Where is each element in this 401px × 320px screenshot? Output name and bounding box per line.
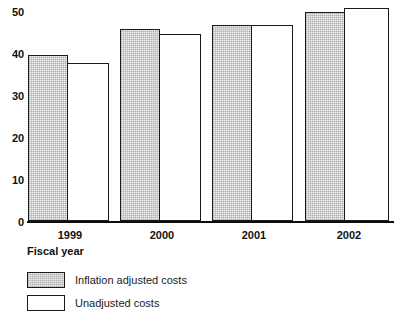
bar-2002-unadjusted-costs <box>344 8 389 221</box>
bar-2000-inflation-adjusted-costs <box>120 29 160 221</box>
legend-label-unadjusted-costs: Unadjusted costs <box>75 296 159 310</box>
legend-swatch-unadjusted-costs <box>27 295 65 311</box>
bar-group-1999 <box>28 8 112 221</box>
bar-2002-inflation-adjusted-costs <box>305 12 345 221</box>
plot-area <box>27 8 394 223</box>
legend-item-unadjusted-costs: Unadjusted costs <box>27 295 257 315</box>
x-tick-label-2001: 2001 <box>212 229 296 241</box>
y-tick-label-0: 0 <box>0 217 24 228</box>
chart-legend: Inflation adjusted costs Unadjusted cost… <box>27 272 257 318</box>
legend-label-inflation-adjusted-costs: Inflation adjusted costs <box>75 273 187 287</box>
x-tick-label-2000: 2000 <box>120 229 204 241</box>
bar-chart-figure: 50 40 30 20 10 0 1999 2000 2001 2002 Fis… <box>0 0 401 320</box>
bar-group-2002 <box>305 8 393 221</box>
bar-1999-inflation-adjusted-costs <box>28 55 68 221</box>
y-tick-label-20: 20 <box>0 133 24 144</box>
bar-2001-inflation-adjusted-costs <box>212 25 252 221</box>
bar-2001-unadjusted-costs <box>251 25 293 221</box>
x-tick-label-2002: 2002 <box>305 229 393 241</box>
legend-item-inflation-adjusted-costs: Inflation adjusted costs <box>27 272 257 292</box>
bar-group-2000 <box>120 8 204 221</box>
y-tick-label-50: 50 <box>0 7 24 18</box>
x-axis-title: Fiscal year <box>27 245 84 257</box>
x-axis-line <box>27 221 394 223</box>
bar-2000-unadjusted-costs <box>159 34 201 221</box>
bar-1999-unadjusted-costs <box>67 63 109 221</box>
bar-group-2001 <box>212 8 296 221</box>
y-tick-label-40: 40 <box>0 49 24 60</box>
legend-swatch-inflation-adjusted-costs <box>27 272 65 288</box>
x-tick-label-1999: 1999 <box>28 229 112 241</box>
y-tick-label-10: 10 <box>0 175 24 186</box>
y-tick-label-30: 30 <box>0 91 24 102</box>
